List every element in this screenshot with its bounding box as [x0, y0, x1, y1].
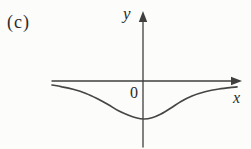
- y-axis-arrowhead: [139, 11, 147, 22]
- x-axis-label: x: [233, 90, 240, 106]
- origin-label: 0: [130, 85, 138, 101]
- function-curve: [52, 85, 237, 119]
- y-axis-label: y: [123, 5, 131, 22]
- figure-panel: (c) y 0 x: [0, 0, 251, 149]
- x-axis-arrowhead: [231, 77, 242, 85]
